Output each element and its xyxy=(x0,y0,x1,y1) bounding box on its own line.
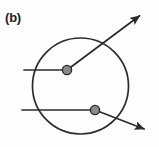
scattering-figure-panel: (b) xyxy=(0,0,159,147)
lower-scattering-center xyxy=(90,105,99,114)
scattering-diagram-canvas xyxy=(0,0,159,147)
upper-outgoing-ray xyxy=(67,16,140,70)
panel-label: (b) xyxy=(5,11,21,24)
upper-scattering-center xyxy=(62,65,71,74)
boundary-circle xyxy=(33,38,129,134)
